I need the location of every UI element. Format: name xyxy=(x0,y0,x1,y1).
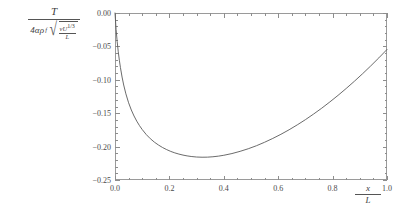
x-tick-label: 0.0 xyxy=(110,184,120,193)
x-tick-label: 0.8 xyxy=(328,184,338,193)
exponent-one-third: 1/3 xyxy=(67,23,75,29)
x-axis-label-numerator: x xyxy=(355,184,381,195)
x-tick-label: 0.4 xyxy=(219,184,229,193)
x-tick-label: 0.2 xyxy=(164,184,174,193)
x-tick-major xyxy=(387,176,388,181)
radicand: νU1/3 L xyxy=(59,21,78,41)
y-axis-label-denominator: 4αρf √ νU1/3 L xyxy=(28,20,80,41)
y-tick-label: −0.10 xyxy=(92,75,111,84)
x-axis-label: x L xyxy=(355,184,381,205)
radical-sign-icon: √ xyxy=(50,21,58,41)
subscript-f: f xyxy=(45,27,47,34)
y-tick-major-right xyxy=(383,180,388,181)
x-tick-major-top xyxy=(387,13,388,18)
curve-svg xyxy=(115,13,387,180)
plot-area: 0.00−0.05−0.10−0.15−0.20−0.250.00.20.40.… xyxy=(115,13,387,180)
y-tick-label: −0.20 xyxy=(92,142,111,151)
square-root: √ νU1/3 L xyxy=(48,21,78,41)
radicand-denominator-L: L xyxy=(59,34,76,41)
y-axis-label-fraction: T 4αρf √ νU1/3 L xyxy=(28,6,80,40)
y-tick-label: −0.05 xyxy=(92,42,111,51)
figure-container: T 4αρf √ νU1/3 L xyxy=(0,0,414,223)
y-axis-label: T 4αρf √ νU1/3 L xyxy=(14,6,94,40)
data-curve xyxy=(115,13,387,157)
y-tick-label: −0.25 xyxy=(92,176,111,185)
denominator-row: 4αρf √ νU1/3 L xyxy=(30,21,78,41)
y-tick-major xyxy=(115,180,120,181)
radicand-fraction: νU1/3 L xyxy=(59,23,76,41)
y-tick-label: −0.15 xyxy=(92,109,111,118)
x-tick-label: 0.6 xyxy=(273,184,283,193)
y-tick-label: 0.00 xyxy=(97,9,111,18)
radicand-numerator: νU1/3 xyxy=(59,23,76,34)
x-tick-label: 1.0 xyxy=(382,184,392,193)
x-axis-label-denominator: L xyxy=(355,195,381,205)
coefficient-4-alpha-rho: 4αρ xyxy=(30,26,44,35)
symbol-T: T xyxy=(51,5,57,17)
